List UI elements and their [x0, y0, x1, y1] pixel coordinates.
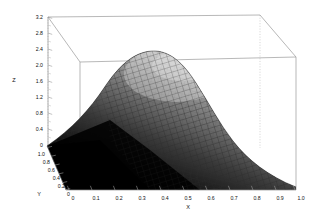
z-axis-ticks [48, 17, 52, 146]
z-tick-label: 1.2 [36, 94, 43, 100]
z-tick-label: 2.8 [36, 30, 43, 36]
x-tick-label: 0.1 [92, 195, 99, 201]
z-tick-label: 2.4 [36, 46, 43, 52]
surface-plot-figure: 3.2 2.8 2.4 2.0 1.6 1.2 0.8 0.4 0 1.0 0.… [0, 0, 323, 218]
box-top-face [48, 15, 296, 62]
y-tick-label: 0.2 [58, 183, 65, 189]
z-tick-label: 3.2 [36, 14, 43, 20]
x-tick-labels: 0 0.1 0.2 0.3 0.4 0.5 0.6 0.7 0.8 0.9 1.… [72, 195, 305, 201]
x-tick-label: 0.9 [276, 195, 283, 201]
z-tick-label: 2.0 [36, 62, 43, 68]
x-tick-label: 0.5 [184, 195, 191, 201]
surface-plot-canvas: 3.2 2.8 2.4 2.0 1.6 1.2 0.8 0.4 0 1.0 0.… [0, 0, 323, 218]
x-axis-title: X [186, 204, 190, 210]
x-tick-label: 0 [72, 195, 75, 201]
y-tick-label: 0.6 [48, 167, 55, 173]
x-tick-label: 0.3 [138, 195, 145, 201]
x-tick-label: 1.0 [297, 195, 304, 201]
y-tick-label: 1.0 [38, 151, 45, 157]
x-tick-label: 0.4 [161, 195, 168, 201]
z-tick-label: 0 [40, 142, 43, 148]
x-tick-label: 0.7 [230, 195, 237, 201]
y-tick-label: 0 [67, 191, 70, 197]
z-tick-label: 0.4 [36, 126, 43, 132]
x-tick-label: 0.6 [207, 195, 214, 201]
x-tick-label: 0.8 [253, 195, 260, 201]
x-tick-label: 0.2 [115, 195, 122, 201]
z-tick-label: 0.8 [36, 110, 43, 116]
z-tick-labels: 3.2 2.8 2.4 2.0 1.6 1.2 0.8 0.4 0 [36, 14, 43, 148]
surface-mesh [40, 40, 310, 195]
y-tick-label: 0.4 [53, 175, 60, 181]
y-tick-label: 0.8 [43, 159, 50, 165]
y-axis-title: Y [37, 191, 41, 197]
z-axis-title: Z [12, 77, 16, 83]
z-tick-label: 1.6 [36, 78, 43, 84]
